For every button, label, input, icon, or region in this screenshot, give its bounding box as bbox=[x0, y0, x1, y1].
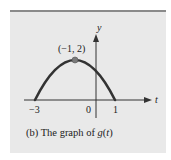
y-axis-arrow-icon bbox=[93, 34, 99, 42]
t-axis-arrow-icon bbox=[144, 97, 152, 103]
tick-label-1: 1 bbox=[113, 104, 118, 115]
y-axis-label: y bbox=[96, 22, 102, 33]
figure-caption: (b) The graph of g(t) bbox=[26, 127, 113, 138]
tick-label-0: 0 bbox=[86, 104, 91, 115]
tick-label-neg3: −3 bbox=[29, 104, 40, 115]
parabola-curve bbox=[35, 60, 115, 100]
vertex-label: (−1, 2) bbox=[58, 43, 85, 55]
vertex-point bbox=[72, 57, 78, 63]
caption-close: ) bbox=[109, 127, 113, 138]
t-axis-label: t bbox=[155, 94, 158, 105]
caption-prefix: (b) The graph of bbox=[26, 127, 98, 138]
